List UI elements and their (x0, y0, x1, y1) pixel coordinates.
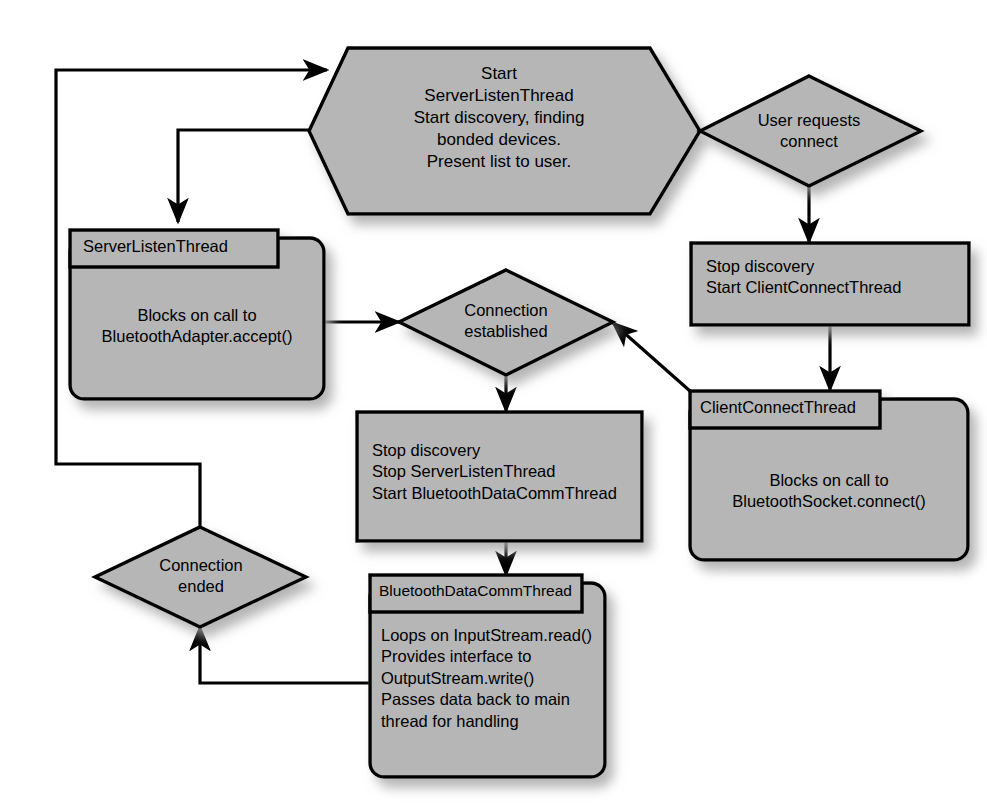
flowchart-graphics (0, 0, 987, 808)
shape-server-listen-thread-tab[interactable] (70, 230, 278, 267)
shape-client-connect-thread-tab[interactable] (690, 391, 880, 428)
edge-comm-to-connection-ended (200, 627, 369, 683)
shape-stop-discovery-start-comm[interactable] (357, 412, 642, 541)
shape-bluetooth-data-comm-thread-tab[interactable] (370, 575, 582, 612)
shape-stop-discovery-start-client[interactable] (691, 243, 969, 325)
shape-start-hexagon[interactable] (309, 48, 700, 214)
shape-connection-established[interactable] (399, 270, 613, 375)
shape-connection-ended[interactable] (95, 527, 306, 627)
shape-user-requests-connect[interactable] (700, 76, 921, 186)
node-shape-layer (70, 48, 969, 777)
edge-client-to-established (613, 323, 690, 391)
flowchart-canvas: Start ServerListenThread Start discovery… (0, 0, 987, 808)
edge-start-to-server-listen (178, 130, 330, 222)
